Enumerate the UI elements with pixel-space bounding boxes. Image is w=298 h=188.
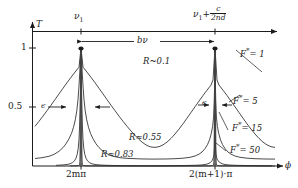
curve-finesse-15 xyxy=(56,48,272,166)
leader-finesse-1 xyxy=(236,50,262,72)
peak-markers xyxy=(78,47,217,51)
leader-finesse-5 xyxy=(229,95,240,102)
plot-canvas xyxy=(0,0,298,188)
curve-finesse-5 xyxy=(35,48,275,159)
frequency-axis xyxy=(33,29,278,35)
label-leader-lines xyxy=(216,50,262,151)
curve-finesse-1 xyxy=(35,48,275,147)
leader-finesse-15 xyxy=(219,112,228,130)
airy-transmission-figure: T ϕ 1 0.5 2mπ 2(m+1)·π ν1 ν1+c2nd bν ϵ ϵ… xyxy=(0,0,298,188)
